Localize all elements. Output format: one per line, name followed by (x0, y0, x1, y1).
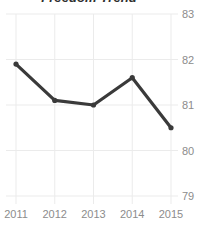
x-axis-tick-label: 2015 (149, 208, 193, 220)
x-axis-tick-label: 2013 (72, 208, 116, 220)
plot-svg (0, 0, 208, 204)
y-axis-tick-label: 80 (182, 145, 206, 157)
x-axis-tick-label: 2014 (110, 208, 154, 220)
data-point (168, 125, 173, 130)
y-axis-tick-label: 83 (182, 8, 206, 20)
plot-area (0, 0, 208, 204)
y-axis-tick-label: 82 (182, 54, 206, 66)
vertical-gridlines (16, 14, 171, 204)
x-axis-tick-label: 2012 (33, 208, 77, 220)
data-point (13, 61, 18, 66)
y-axis-tick-label: 79 (182, 190, 206, 202)
data-point (52, 98, 57, 103)
data-point (91, 102, 96, 107)
data-point (130, 75, 135, 80)
y-axis-tick-label: 81 (182, 99, 206, 111)
line-chart: Freedom Trend 8382818079 201120122013201… (0, 0, 208, 232)
